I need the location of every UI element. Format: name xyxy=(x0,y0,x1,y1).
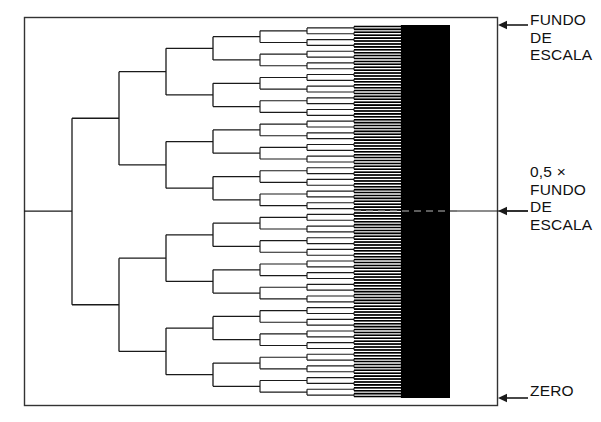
label-line: ESCALA xyxy=(530,216,592,234)
label-line: ZERO xyxy=(530,382,574,400)
label-line: DE xyxy=(530,198,592,216)
label-half-scale: 0,5 ×FUNDODEESCALA xyxy=(530,163,592,233)
label-zero: ZERO xyxy=(530,382,574,400)
annotation-arrows xyxy=(450,21,528,403)
bisection-tree-svg xyxy=(0,0,601,422)
label-line: 0,5 × xyxy=(530,163,592,181)
label-line: DE xyxy=(530,29,592,47)
solid-black-block xyxy=(354,25,460,398)
arrow-head-fullscale xyxy=(498,21,507,30)
label-line: FUNDO xyxy=(530,11,592,29)
label-full-scale: FUNDODEESCALA xyxy=(530,11,592,64)
label-line: FUNDO xyxy=(530,181,592,199)
figure-root: FUNDODEESCALA 0,5 ×FUNDODEESCALA ZERO xyxy=(0,0,601,422)
arrow-head-zero xyxy=(498,394,507,403)
label-line: ESCALA xyxy=(530,46,592,64)
